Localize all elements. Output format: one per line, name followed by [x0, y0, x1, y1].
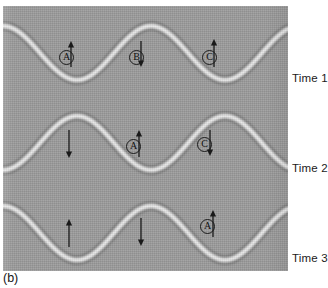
- velocity-arrow-up-r3-1[interactable]: [64, 219, 74, 247]
- time-label-2: Time 3: [292, 252, 328, 264]
- velocity-arrow-up-r1-a[interactable]: [66, 41, 76, 67]
- velocity-arrow-down-r1-b[interactable]: [136, 41, 146, 67]
- velocity-arrow-up-r2-a[interactable]: [134, 130, 144, 157]
- time-label-1: Time 2: [292, 162, 328, 174]
- wave-image-panel: ABCACA: [3, 6, 288, 271]
- velocity-arrow-up-r1-c[interactable]: [209, 39, 219, 67]
- time-label-0: Time 1: [292, 72, 328, 84]
- velocity-arrow-down-r2-1[interactable]: [64, 130, 74, 158]
- figure-caption: (b): [3, 271, 18, 285]
- velocity-arrow-up-r3-a[interactable]: [208, 210, 218, 237]
- velocity-arrow-down-r3-2[interactable]: [136, 218, 146, 246]
- velocity-arrow-down-r2-c[interactable]: [205, 130, 215, 156]
